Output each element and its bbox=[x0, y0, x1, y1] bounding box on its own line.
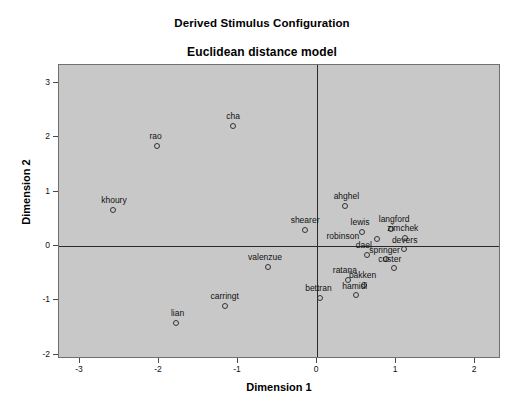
x-tick-mark bbox=[316, 358, 317, 363]
scatter-point bbox=[353, 292, 359, 298]
x-tick-mark bbox=[158, 358, 159, 363]
scatter-point-label: devers bbox=[392, 236, 418, 245]
scatter-point-label: langford bbox=[379, 215, 410, 224]
scatter-point bbox=[374, 236, 380, 242]
scatter-point bbox=[222, 303, 228, 309]
y-tick-mark bbox=[53, 354, 58, 355]
y-tick-mark bbox=[53, 136, 58, 137]
scatter-point bbox=[265, 264, 271, 270]
scatter-point-label: valenzue bbox=[248, 253, 282, 262]
y-tick-mark bbox=[53, 245, 58, 246]
chart-title: Derived Stimulus Configuration bbox=[0, 17, 524, 29]
scatter-point-label: robinson bbox=[327, 232, 360, 241]
scatter-point bbox=[173, 320, 179, 326]
scatter-point-label: custer bbox=[378, 255, 401, 264]
x-tick-mark bbox=[474, 358, 475, 363]
scatter-point bbox=[359, 229, 365, 235]
y-tick-mark bbox=[53, 299, 58, 300]
x-tick-label: 2 bbox=[462, 364, 486, 374]
scatter-point bbox=[317, 295, 323, 301]
x-tick-mark bbox=[237, 358, 238, 363]
x-tick-label: -3 bbox=[67, 364, 91, 374]
x-tick-label: -2 bbox=[146, 364, 170, 374]
scatter-point-label: bettran bbox=[305, 284, 331, 293]
plot-frame: charaokhouryahghelshearerlewislangfordro… bbox=[58, 64, 500, 358]
chart-subtitle: Euclidean distance model bbox=[0, 45, 524, 59]
scatter-point-label: khoury bbox=[101, 196, 127, 205]
x-tick-label: -1 bbox=[225, 364, 249, 374]
scatter-point-label: shearer bbox=[291, 216, 320, 225]
y-tick-label: -1 bbox=[30, 294, 50, 304]
scatter-point bbox=[342, 203, 348, 209]
chart-screenshot: Derived Stimulus Configuration Euclidean… bbox=[0, 0, 524, 409]
y-tick-label: 0 bbox=[30, 240, 50, 250]
y-tick-label: 2 bbox=[30, 131, 50, 141]
scatter-point-label: rao bbox=[149, 132, 161, 141]
x-tick-mark bbox=[79, 358, 80, 363]
x-axis-title: Dimension 1 bbox=[58, 381, 500, 393]
y-tick-mark bbox=[53, 82, 58, 83]
horizontal-zero-axis-line bbox=[59, 246, 499, 247]
scatter-point-label: carringt bbox=[211, 292, 239, 301]
scatter-point bbox=[110, 207, 116, 213]
y-tick-label: -2 bbox=[30, 349, 50, 359]
x-tick-mark bbox=[395, 358, 396, 363]
scatter-point-label: lian bbox=[171, 309, 184, 318]
scatter-point bbox=[401, 246, 407, 252]
scatter-point bbox=[230, 123, 236, 129]
scatter-point-label: ahghel bbox=[334, 192, 360, 201]
scatter-point-label: bakken bbox=[349, 271, 376, 280]
vertical-zero-axis-line bbox=[317, 65, 318, 357]
scatter-point bbox=[302, 227, 308, 233]
x-tick-label: 0 bbox=[304, 364, 328, 374]
y-tick-label: 1 bbox=[30, 186, 50, 196]
scatter-point-label: zimchek bbox=[387, 224, 418, 233]
scatter-point-label: cha bbox=[226, 112, 240, 121]
plot-area: charaokhouryahghelshearerlewislangfordro… bbox=[59, 65, 499, 357]
y-tick-label: 3 bbox=[30, 77, 50, 87]
y-tick-mark bbox=[53, 191, 58, 192]
x-tick-label: 1 bbox=[383, 364, 407, 374]
scatter-point-label: lewis bbox=[351, 218, 370, 227]
scatter-point-label: hamidi bbox=[342, 282, 367, 291]
scatter-point bbox=[391, 265, 397, 271]
y-axis-title: Dimension 2 bbox=[20, 117, 32, 267]
scatter-point bbox=[154, 143, 160, 149]
